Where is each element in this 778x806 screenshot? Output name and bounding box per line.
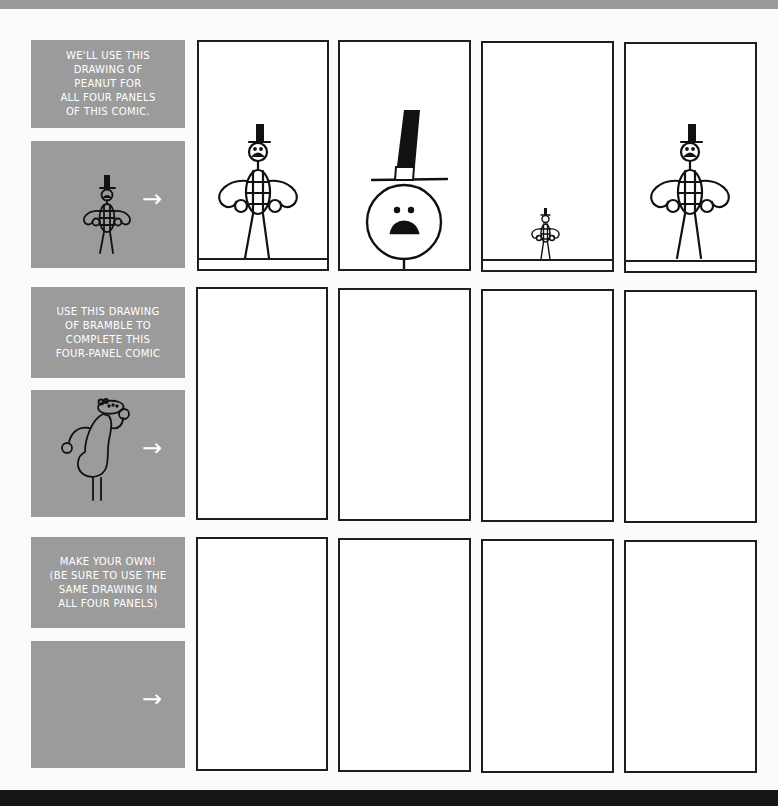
row3-panel-4[interactable]: [624, 540, 757, 773]
peanut-medium-drawing-icon: [626, 44, 755, 271]
arrow-right-icon: →: [142, 687, 162, 711]
row3-panel-2[interactable]: [338, 538, 471, 772]
row2-panel-1[interactable]: [196, 287, 328, 520]
row2-panel-2[interactable]: [338, 288, 471, 521]
ground-line: [483, 259, 612, 261]
peanut-medium-drawing-icon: [199, 42, 327, 269]
row2-panel-3[interactable]: [481, 289, 614, 522]
top-strip: [0, 0, 778, 9]
ground-line: [626, 260, 755, 262]
row3-character-box[interactable]: →: [31, 641, 185, 768]
row1-panel-4: [624, 42, 757, 273]
arrow-right-icon: →: [142, 187, 162, 211]
row3-panel-1[interactable]: [196, 537, 328, 771]
row1-panel-2: [338, 40, 471, 271]
row3-caption: MAKE YOUR OWN! (BE SURE TO USE THE SAME …: [31, 537, 185, 628]
bottom-bar: [0, 790, 778, 806]
row2-panel-4[interactable]: [624, 290, 757, 523]
row1-panel-3: [481, 41, 614, 272]
ground-line: [199, 258, 327, 260]
row1-character-box: →: [31, 141, 185, 268]
row1-panel-1: [197, 40, 329, 271]
peanut-closeup-drawing-icon: [340, 42, 469, 269]
row1-caption: WE'LL USE THIS DRAWING OF PEANUT FOR ALL…: [31, 40, 185, 128]
row3-panel-3[interactable]: [481, 539, 614, 773]
row2-caption: USE THIS DRAWING OF BRAMBLE TO COMPLETE …: [31, 287, 185, 378]
row2-character-box: →: [31, 390, 185, 517]
arrow-right-icon: →: [142, 436, 162, 460]
peanut-small-drawing-icon: [483, 43, 612, 270]
